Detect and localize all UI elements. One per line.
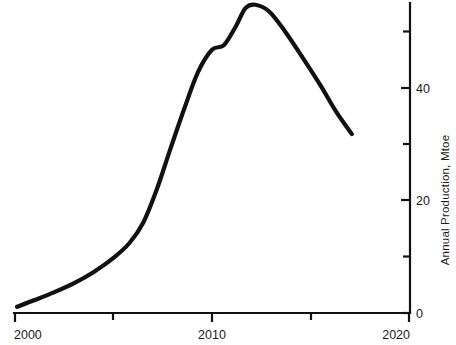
x-tick-label-2010: 2010 bbox=[198, 328, 226, 342]
y-tick-label-40: 40 bbox=[416, 82, 430, 96]
chart-container: 2000 2010 2020 0 20 40 Annual Production… bbox=[0, 0, 456, 345]
y-tick-label-20: 20 bbox=[416, 194, 430, 208]
line-chart-plot: 2000 2010 2020 0 20 40 Annual Production… bbox=[0, 0, 456, 345]
y-axis-title: Annual Production, Mtoe bbox=[439, 135, 451, 266]
x-tick-label-2020: 2020 bbox=[382, 328, 410, 342]
y-tick-label-0: 0 bbox=[416, 307, 423, 321]
x-tick-label-2000: 2000 bbox=[14, 328, 42, 342]
data-series-line bbox=[17, 5, 352, 307]
